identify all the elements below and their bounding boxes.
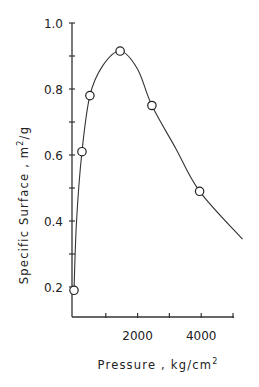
data-point-marker — [148, 101, 156, 109]
data-point-marker — [78, 148, 86, 156]
y-tick-label: 1.0 — [44, 17, 63, 31]
y-tick-label: 0.2 — [44, 281, 63, 295]
y-axis-label: Specific Surface , m2/g — [16, 126, 31, 284]
chart: 0.20.40.60.81.0 20004000 Specific Surfac… — [0, 0, 259, 387]
data-point-marker — [70, 286, 78, 294]
data-point-marker — [86, 91, 94, 99]
y-tick-label: 0.6 — [44, 149, 63, 163]
axes — [72, 23, 234, 317]
data-point-marker — [195, 187, 203, 195]
x-tick-label: 4000 — [186, 329, 217, 343]
data-point-marker — [116, 47, 124, 55]
y-tick-label: 0.8 — [44, 83, 63, 97]
fit-curve — [74, 51, 243, 290]
x-tick-label: 2000 — [122, 329, 153, 343]
y-ticks: 0.20.40.60.81.0 — [44, 17, 75, 295]
x-axis-label: Pressure , kg/cm2 — [98, 357, 219, 372]
data-markers — [70, 47, 204, 295]
y-tick-label: 0.4 — [44, 215, 63, 229]
